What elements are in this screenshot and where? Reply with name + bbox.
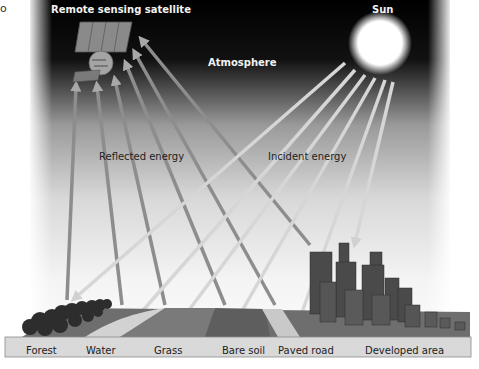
- atmosphere-label: Atmosphere: [208, 57, 277, 68]
- corner-mark: o: [0, 2, 7, 15]
- ground-label-developed-area: Developed area: [365, 345, 444, 356]
- reflected-energy-label: Reflected energy: [99, 151, 184, 162]
- sun-label: Sun: [372, 4, 393, 15]
- ground-label-forest: Forest: [26, 345, 57, 356]
- diagram-canvas: [0, 0, 479, 369]
- remote-sensing-diagram: o Remote sensing satellite Sun Atmospher…: [0, 0, 479, 369]
- ground-label-paved-road: Paved road: [278, 345, 334, 356]
- ground-label-water: Water: [86, 345, 116, 356]
- satellite-label: Remote sensing satellite: [51, 4, 191, 15]
- ground-label-grass: Grass: [154, 345, 182, 356]
- ground-label-bare-soil: Bare soil: [222, 345, 265, 356]
- incident-energy-label: Incident energy: [268, 151, 346, 162]
